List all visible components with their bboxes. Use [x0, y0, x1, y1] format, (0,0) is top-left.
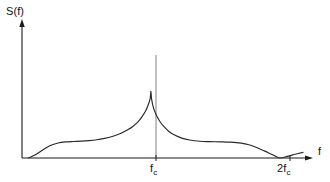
spectrum-plot-canvas	[0, 0, 330, 182]
spectrum-figure: S(f) f fc 2fc	[0, 0, 330, 182]
x-axis-label: f	[318, 146, 321, 157]
spectral-density-curve	[28, 91, 303, 158]
x-axis-arrowhead	[305, 155, 313, 160]
fc-subscript: c	[153, 168, 157, 177]
y-axis-label: S(f)	[6, 6, 24, 17]
2fc-tick-label: 2fc	[277, 163, 290, 177]
2fc-subscript: c	[286, 168, 290, 177]
fc-tick-label: fc	[150, 163, 157, 177]
y-axis-arrowhead	[19, 19, 24, 27]
